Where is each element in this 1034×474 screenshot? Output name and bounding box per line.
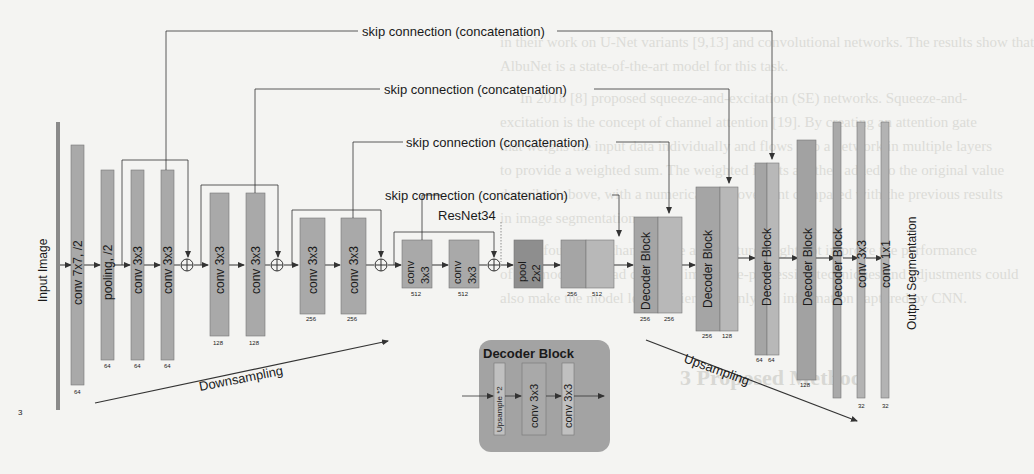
svg-text:128: 128 <box>722 333 733 339</box>
svg-text:conv 3x3: conv 3x3 <box>213 246 227 294</box>
svg-text:128: 128 <box>213 340 224 346</box>
layer-pool2x2: pool 2x2 <box>514 240 543 288</box>
add-icon <box>181 259 193 271</box>
svg-text:32: 32 <box>882 403 889 409</box>
decoder: Decoder Block 256 256 Decoder Block 256 … <box>634 122 893 409</box>
layer-conv3x3-256b: conv 3x3 256 <box>341 218 366 322</box>
layer-conv3x3-64b: conv 3x3 64 <box>161 170 175 369</box>
decoder-block-2: Decoder Block 256 128 <box>696 187 738 339</box>
page-number: 3 <box>18 408 23 417</box>
add-icon <box>271 259 283 271</box>
svg-text:conv 3x3: conv 3x3 <box>161 246 175 294</box>
layer-conv1x1: conv 1x1 32 <box>879 122 893 409</box>
legend-conv-1: conv 3x3 <box>528 384 540 428</box>
layer-conv3x3-final: conv 3x3 32 <box>855 122 869 409</box>
output-segmentation-label: Output Segmentation <box>905 217 919 330</box>
svg-text:64: 64 <box>164 363 171 369</box>
svg-text:256: 256 <box>702 333 713 339</box>
decoder-block-1: Decoder Block 256 256 <box>634 217 682 322</box>
svg-text:pool: pool <box>516 261 528 282</box>
svg-text:Decoder Block: Decoder Block <box>639 231 653 310</box>
svg-text:64: 64 <box>104 363 111 369</box>
svg-text:Decoder Block: Decoder Block <box>760 227 774 306</box>
layer-conv3x3-512a: conv 3x3 512 <box>402 240 432 297</box>
svg-text:32: 32 <box>858 403 865 409</box>
svg-text:64: 64 <box>74 389 81 395</box>
legend-title: Decoder Block <box>483 346 575 361</box>
layer-conv3x3-128a: conv 3x3 128 <box>210 193 229 346</box>
svg-text:Decoder Block: Decoder Block <box>801 227 815 306</box>
svg-text:128: 128 <box>800 382 811 388</box>
upsampling-label: Upsampling <box>682 351 752 389</box>
svg-text:Decoder Block: Decoder Block <box>831 227 845 306</box>
skip-connection-label-1: skip connection (concatenation) <box>362 24 545 39</box>
svg-text:conv 7x7, /2: conv 7x7, /2 <box>71 240 85 305</box>
svg-text:conv: conv <box>404 260 416 284</box>
svg-text:64: 64 <box>768 357 775 363</box>
svg-text:conv 3x3: conv 3x3 <box>347 246 361 294</box>
decoder-block-4: Decoder Block 128 <box>797 140 816 388</box>
decoder-block-legend: Decoder Block Upsample *2 conv 3x3 conv … <box>462 340 610 452</box>
layer-conv3x3-64a: conv 3x3 64 <box>131 170 145 369</box>
svg-text:256: 256 <box>306 316 317 322</box>
add-icon <box>488 259 500 271</box>
legend-upsample: Upsample *2 <box>495 386 504 432</box>
svg-text:conv 1x1: conv 1x1 <box>879 240 893 288</box>
svg-text:512: 512 <box>411 291 422 297</box>
svg-text:512: 512 <box>592 291 603 297</box>
svg-text:conv 3x3: conv 3x3 <box>306 246 320 294</box>
svg-text:conv: conv <box>451 260 463 284</box>
svg-text:64: 64 <box>134 363 141 369</box>
decoder-block-5: Decoder Block <box>831 122 845 398</box>
svg-text:3x3: 3x3 <box>419 266 431 284</box>
svg-text:256: 256 <box>640 316 651 322</box>
bottleneck-block: 256 512 <box>561 240 614 297</box>
layer-conv3x3-512b: conv 3x3 512 <box>449 240 479 297</box>
svg-text:128: 128 <box>249 340 260 346</box>
svg-text:conv 3x3: conv 3x3 <box>855 240 869 288</box>
input-image-label: Input Image <box>36 238 50 302</box>
encoder: conv 7x7, /2 64 pooling, /2 64 conv 3x3 … <box>71 145 543 395</box>
svg-text:256: 256 <box>664 316 675 322</box>
skip-connection-labels: skip connection (concatenation) skip con… <box>362 24 589 203</box>
skip-connection-label-3: skip connection (concatenation) <box>406 135 589 150</box>
layer-conv3x3-256a: conv 3x3 256 <box>300 218 325 322</box>
svg-text:512: 512 <box>458 291 469 297</box>
skip-connection-label-4: skip connection (concatenation) <box>385 188 568 203</box>
resnet34-label: ResNet34 <box>438 208 496 223</box>
add-icon <box>375 259 387 271</box>
layer-conv7x7: conv 7x7, /2 64 <box>71 145 85 395</box>
svg-text:256: 256 <box>347 316 358 322</box>
layer-conv3x3-128b: conv 3x3 128 <box>246 193 265 346</box>
svg-text:conv 3x3: conv 3x3 <box>249 246 263 294</box>
svg-text:3x3: 3x3 <box>466 266 478 284</box>
svg-text:256: 256 <box>567 291 578 297</box>
svg-text:2x2: 2x2 <box>530 264 542 282</box>
legend-conv-2: conv 3x3 <box>562 384 574 428</box>
skip-connection-label-2: skip connection (concatenation) <box>384 82 567 97</box>
layer-pooling: pooling, /2 64 <box>101 170 115 369</box>
decoder-block-3: Decoder Block 64 64 <box>755 163 779 363</box>
input-image: Input Image <box>36 122 60 410</box>
svg-text:64: 64 <box>756 357 763 363</box>
upsampling-arrow: Upsampling <box>646 340 857 421</box>
svg-text:conv 3x3: conv 3x3 <box>131 246 145 294</box>
downsampling-label: Downsampling <box>198 363 285 394</box>
svg-text:pooling, /2: pooling, /2 <box>101 244 115 300</box>
svg-text:Decoder Block: Decoder Block <box>701 229 715 308</box>
